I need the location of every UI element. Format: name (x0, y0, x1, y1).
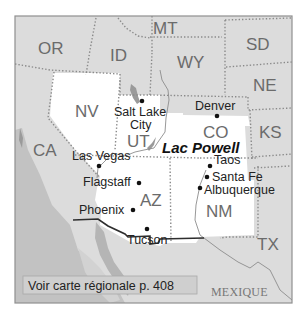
city-dot-phoenix (131, 208, 136, 213)
city-dot-taos (208, 164, 213, 169)
city-dot-albuquerque (198, 186, 203, 191)
city-label-las-vegas: Las Vegas (72, 149, 130, 163)
regional-map: OR ID MT WY SD NE NV UT CO KS CA AZ NM T… (0, 0, 303, 318)
city-label-salt-lake-city-line2: City (130, 118, 152, 132)
city-dot-denver (215, 114, 220, 119)
city-label-tucson: Tucson (127, 233, 168, 247)
state-label-nv: NV (75, 102, 99, 121)
state-label-tx: TX (257, 235, 279, 254)
city-label-phoenix: Phoenix (79, 203, 125, 217)
state-label-ne: NE (253, 76, 277, 95)
city-dot-salt-lake-city (140, 99, 145, 104)
state-label-az: AZ (140, 191, 162, 210)
city-label-albuquerque: Albuquerque (204, 183, 275, 197)
state-label-nm: NM (206, 202, 232, 221)
city-label-santa-fe: Santa Fe (212, 170, 263, 184)
city-dot-tucson (145, 227, 150, 232)
state-label-sd: SD (246, 35, 270, 54)
city-label-denver: Denver (195, 99, 235, 113)
country-label-mexique: MEXIQUE (211, 285, 268, 299)
city-label-flagstaff: Flagstaff (83, 175, 131, 189)
state-label-ut: UT (127, 132, 150, 151)
reference-link[interactable]: Voir carte régionale p. 408 (28, 279, 174, 293)
state-label-or: OR (38, 39, 64, 58)
state-label-mt: MT (153, 19, 178, 38)
state-label-wy: WY (177, 53, 204, 72)
state-label-id: ID (110, 46, 127, 65)
state-label-ks: KS (259, 123, 282, 142)
map-canvas: OR ID MT WY SD NE NV UT CO KS CA AZ NM T… (0, 0, 303, 318)
state-label-ca: CA (33, 141, 57, 160)
highlight-label-lac-powell: Lac Powell (162, 139, 240, 156)
city-label-salt-lake-city-line1: Salt Lake (114, 105, 166, 119)
city-dot-las-vegas (97, 164, 102, 169)
city-dot-flagstaff (137, 181, 142, 186)
city-dot-santa-fe (205, 175, 210, 180)
